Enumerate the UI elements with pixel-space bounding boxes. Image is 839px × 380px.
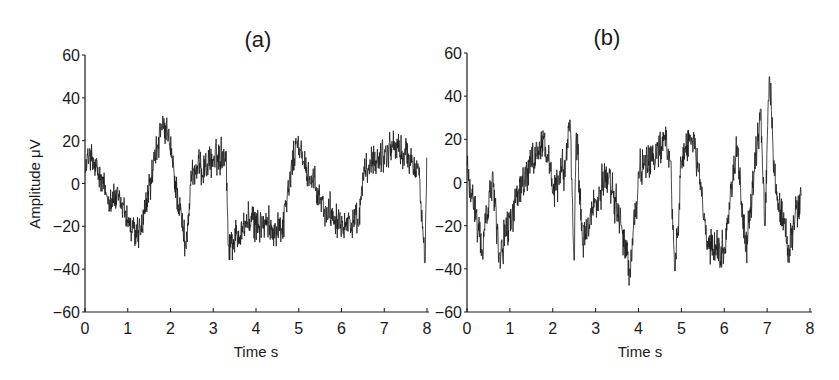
y-tick-label: −60 [435, 304, 462, 321]
x-tick-label: 7 [380, 320, 389, 337]
y-tick-label: −40 [53, 261, 80, 278]
panel-b-x-axis-label: Time s [618, 343, 662, 360]
y-tick-label: 20 [444, 131, 462, 148]
x-tick-label: 5 [677, 320, 686, 337]
panel-a-y-axis-label: Amplitude μV [26, 139, 43, 229]
y-tick-label: 60 [62, 47, 80, 64]
panel-b-trace [467, 77, 801, 286]
panel-a-axes: 6040200−20−40−60012345678 [53, 47, 432, 337]
x-tick-label: 1 [123, 320, 132, 337]
y-tick-label: −20 [435, 218, 462, 235]
panel-b: (b) Time s 6040200−20−40−60012345678 [435, 25, 815, 360]
panel-a-x-axis-label: Time s [234, 343, 278, 360]
panel-b-title: (b) [594, 25, 621, 50]
x-tick-label: 0 [463, 320, 472, 337]
x-tick-label: 3 [591, 320, 600, 337]
y-tick-label: 0 [453, 175, 462, 192]
x-tick-label: 5 [294, 320, 303, 337]
y-tick-label: −40 [435, 261, 462, 278]
x-tick-label: 4 [634, 320, 643, 337]
panel-a-title: (a) [245, 27, 272, 52]
y-tick-label: 0 [71, 176, 80, 193]
x-tick-label: 8 [423, 320, 432, 337]
x-tick-label: 1 [505, 320, 514, 337]
x-tick-label: 0 [81, 320, 90, 337]
x-tick-label: 6 [720, 320, 729, 337]
x-tick-label: 3 [209, 320, 218, 337]
eeg-chart-figure: (a) Amplitude μV Time s 6040200−20−40−60… [0, 0, 839, 380]
y-tick-label: 60 [444, 45, 462, 62]
y-tick-label: 40 [444, 88, 462, 105]
y-tick-label: −60 [53, 304, 80, 321]
x-tick-label: 2 [548, 320, 557, 337]
panel-a-trace [85, 116, 427, 263]
y-tick-label: −20 [53, 218, 80, 235]
x-tick-label: 4 [252, 320, 261, 337]
y-tick-label: 40 [62, 90, 80, 107]
x-tick-label: 7 [763, 320, 772, 337]
x-tick-label: 8 [806, 320, 815, 337]
panel-a: (a) Amplitude μV Time s 6040200−20−40−60… [26, 27, 432, 360]
x-tick-label: 2 [166, 320, 175, 337]
x-tick-label: 6 [337, 320, 346, 337]
y-tick-label: 20 [62, 133, 80, 150]
